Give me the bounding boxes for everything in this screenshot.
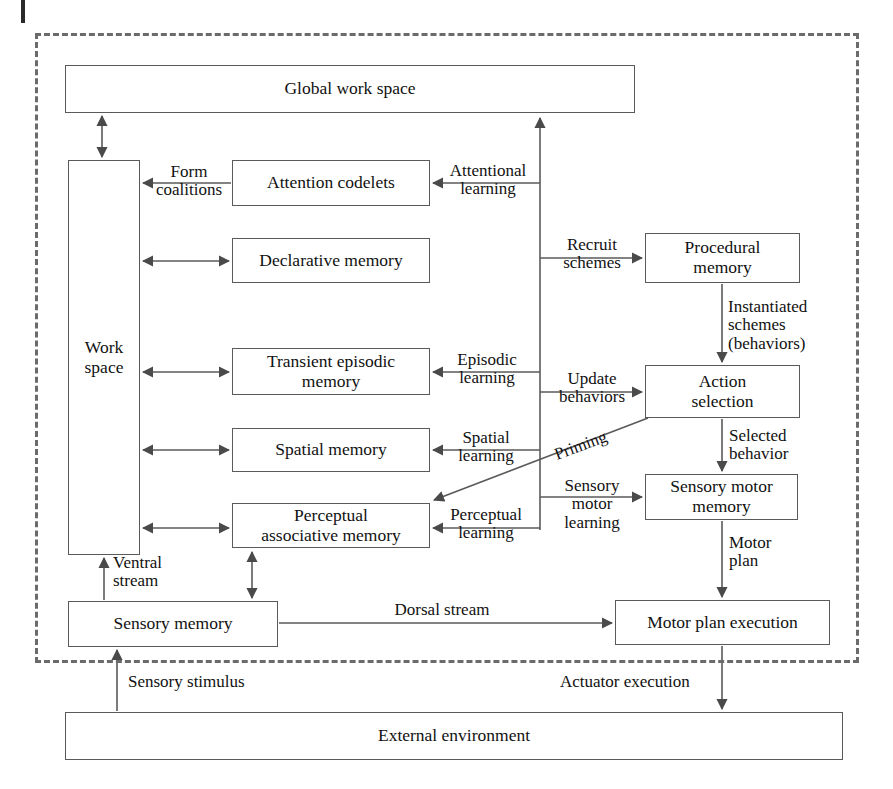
edge-label-sensory-motor-learning: Sensory motor learning [546,477,638,532]
node-work-space-label: Work space [81,338,128,377]
node-declarative-memory-label: Declarative memory [255,251,406,271]
edge-label-ventral-stream: Ventral stream [113,554,193,591]
node-sensory-motor-memory[interactable]: Sensory motor memory [645,474,798,520]
edge-label-motor-plan: Motor plan [729,534,803,571]
edge-label-episodic-learning: Episodic learning [437,351,537,388]
node-motor-plan-execution[interactable]: Motor plan execution [615,600,830,645]
node-transient-episodic-memory[interactable]: Transient episodic memory [232,348,430,395]
node-sensory-memory[interactable]: Sensory memory [68,601,278,647]
node-external-environment-label: External environment [374,726,534,746]
node-work-space[interactable]: Work space [68,160,140,555]
diagram-page: Global work space Work space Attention c… [0,0,893,789]
edge-label-update-behaviors: Update behaviors [543,370,641,407]
node-attention-codelets[interactable]: Attention codelets [232,160,430,206]
node-spatial-memory[interactable]: Spatial memory [232,428,430,472]
node-procedural-memory-label: Procedural memory [681,238,765,277]
node-action-selection-label: Action selection [687,372,757,411]
node-procedural-memory[interactable]: Procedural memory [645,233,800,283]
edge-label-instantiated-schemes: Instantiated schemes (behaviors) [728,298,862,353]
node-global-work-space[interactable]: Global work space [65,65,635,113]
edge-label-dorsal-stream: Dorsal stream [352,601,532,619]
node-perceptual-associative-memory[interactable]: Perceptual associative memory [232,503,430,548]
edge-label-recruit-schemes: Recruit schemes [545,236,639,273]
node-sensory-motor-memory-label: Sensory motor memory [666,477,777,516]
node-external-environment[interactable]: External environment [65,712,843,760]
edge-label-sensory-stimulus: Sensory stimulus [128,673,328,691]
node-attention-codelets-label: Attention codelets [263,173,399,193]
edge-label-perceptual-learning: Perceptual learning [434,506,538,543]
node-action-selection[interactable]: Action selection [645,365,800,418]
node-spatial-memory-label: Spatial memory [271,440,390,460]
node-motor-plan-execution-label: Motor plan execution [643,613,802,633]
edge-label-actuator-execution: Actuator execution [560,673,760,691]
node-transient-episodic-memory-label: Transient episodic memory [263,352,399,391]
edge-label-selected-behavior: Selected behavior [729,427,829,464]
node-declarative-memory[interactable]: Declarative memory [232,238,430,283]
node-sensory-memory-label: Sensory memory [109,614,236,634]
edge-label-attentional-learning: Attentional learning [437,162,539,199]
edge-label-spatial-learning: Spatial learning [437,429,535,466]
scan-artifact-mark [21,0,25,23]
edge-label-form-coalitions: Form coalitions [146,163,232,200]
node-perceptual-associative-memory-label: Perceptual associative memory [257,506,404,545]
node-global-work-space-label: Global work space [280,79,419,99]
